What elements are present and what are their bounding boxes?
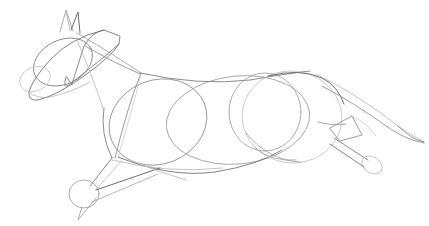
horse-construction-drawing — [0, 0, 429, 226]
paper-background — [0, 0, 429, 226]
sketch-canvas — [0, 0, 429, 226]
